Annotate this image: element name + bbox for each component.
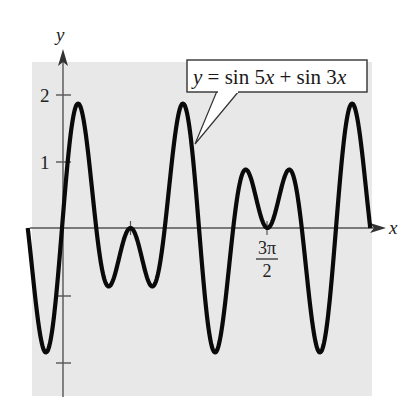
callout-eq: = sin 5 — [202, 65, 265, 89]
callout-y: y — [191, 65, 203, 89]
y-tick-label-2: 2 — [40, 85, 50, 106]
chart-figure: x y 2 1 3π 2 y = sin 5x + sin 3x — [0, 0, 420, 409]
y-tick-label-1: 1 — [40, 152, 50, 173]
y-axis-label: y — [54, 24, 65, 45]
callout-equation: y = sin 5x + sin 3x — [191, 65, 347, 89]
callout-x2: x — [336, 65, 347, 89]
callout-plus: + sin 3 — [274, 65, 337, 89]
x-axis-label: x — [388, 217, 398, 238]
x-tick-label-3pi-num: 3π — [258, 238, 276, 258]
x-tick-label-3pi-den: 2 — [263, 261, 272, 281]
